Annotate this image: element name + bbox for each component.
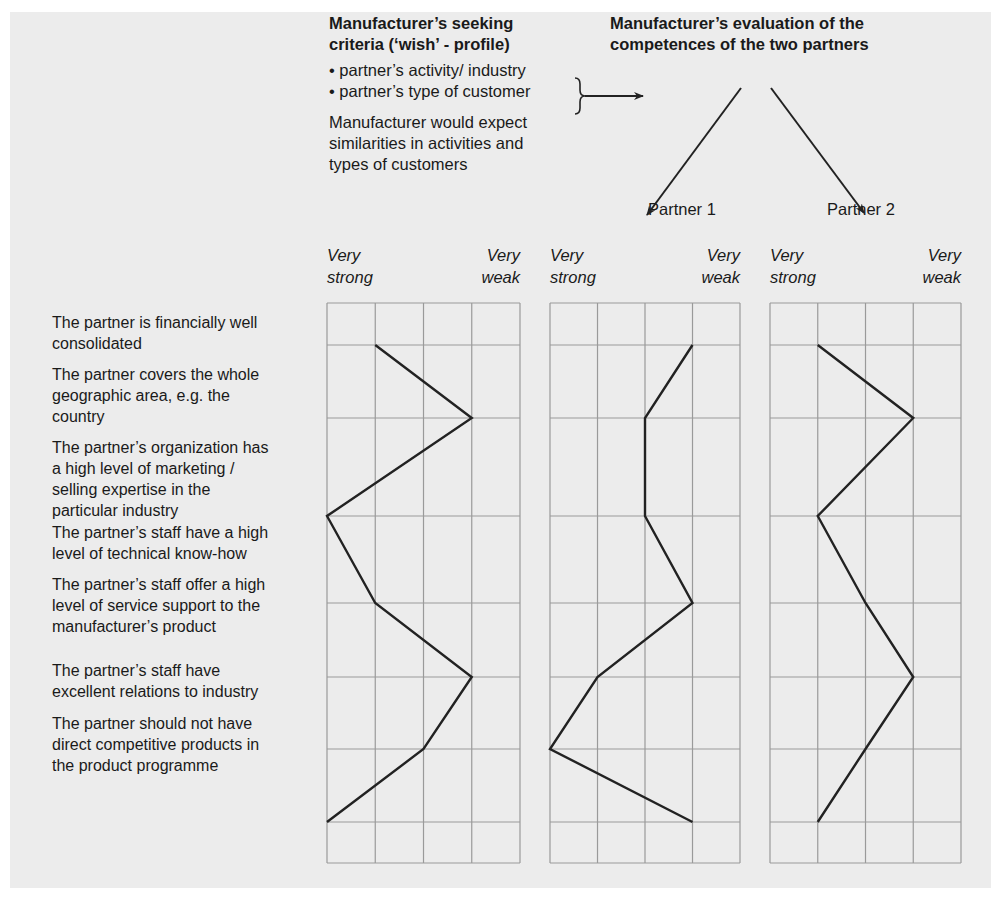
- diagram-graphics: [0, 0, 991, 900]
- arrow-partner1-icon: [647, 88, 741, 215]
- profile-line-partner1: [550, 345, 693, 822]
- arrow-partner2-icon: [771, 88, 864, 213]
- profile-line-wish: [327, 345, 472, 822]
- profile-grid-partner2: [770, 303, 961, 863]
- profile-grid-partner1: [550, 303, 740, 863]
- profile-grid-wish: [327, 303, 520, 863]
- brace-icon: [575, 78, 585, 114]
